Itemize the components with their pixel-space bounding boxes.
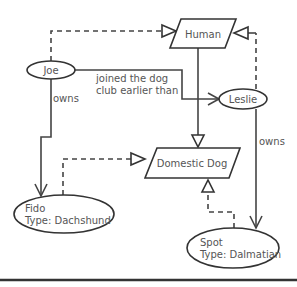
- hollow-triangle-arrow-icon: [234, 27, 248, 39]
- edge-spot-dog: [202, 180, 234, 228]
- diagram-canvas: joined the dog club earlier than owns ow…: [0, 0, 297, 287]
- hollow-triangle-arrow-icon: [162, 25, 176, 37]
- edge-joe-owns: owns: [35, 79, 79, 196]
- node-fido[interactable]: Fido Type: Dachshund: [14, 195, 114, 233]
- node-label-domestic-dog: Domestic Dog: [157, 158, 227, 169]
- node-leslie[interactable]: Leslie: [219, 89, 267, 109]
- node-label-fido-name: Fido: [25, 203, 45, 214]
- edge-label-joined-1: joined the dog: [95, 73, 168, 84]
- edge-joe-human: [51, 25, 176, 61]
- node-label-spot-type: Type: Dalmatian: [199, 249, 281, 260]
- hollow-triangle-arrow-icon: [192, 135, 204, 147]
- node-label-fido-type: Type: Dachshund: [24, 215, 111, 226]
- edge-label-joe-owns: owns: [53, 93, 79, 104]
- node-label-human: Human: [185, 29, 221, 40]
- edge-fido-dog: [63, 153, 145, 195]
- edge-human-dog: [192, 48, 204, 147]
- edge-label-joined-2: club earlier than: [96, 85, 178, 96]
- node-spot[interactable]: Spot Type: Dalmatian: [187, 228, 281, 268]
- hollow-triangle-arrow-icon: [202, 180, 214, 192]
- node-human[interactable]: Human: [170, 19, 236, 48]
- edge-leslie-human: [234, 27, 256, 89]
- node-label-joe: Joe: [42, 65, 58, 76]
- node-label-leslie: Leslie: [229, 94, 257, 105]
- node-label-spot-name: Spot: [200, 237, 223, 248]
- edge-label-leslie-owns: owns: [259, 136, 285, 147]
- edge-leslie-owns: owns: [250, 109, 285, 228]
- hollow-triangle-arrow-icon: [131, 153, 145, 165]
- node-joe[interactable]: Joe: [27, 61, 75, 79]
- node-domestic-dog[interactable]: Domestic Dog: [145, 148, 240, 178]
